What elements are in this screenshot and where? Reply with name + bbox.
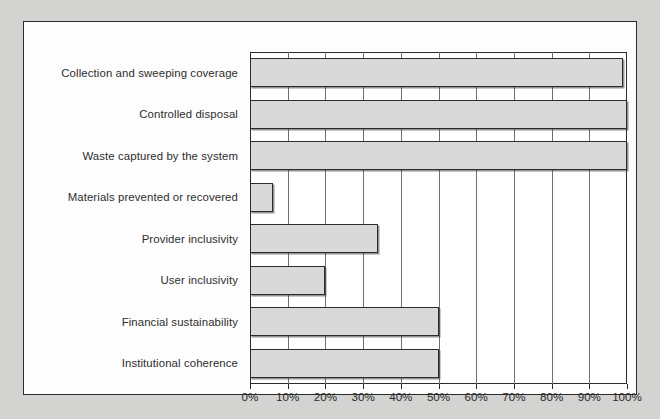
y-axis-label: User inclusivity bbox=[47, 260, 245, 302]
plot-area bbox=[250, 52, 627, 384]
x-axis-tick bbox=[627, 384, 628, 389]
x-axis-tick bbox=[288, 384, 289, 389]
y-axis-label: Collection and sweeping coverage bbox=[47, 52, 245, 94]
x-axis-tick-label: 50% bbox=[427, 390, 450, 403]
bar-row bbox=[250, 177, 627, 219]
x-axis-tick-label: 10% bbox=[276, 390, 299, 403]
y-axis-label: Provider inclusivity bbox=[47, 218, 245, 260]
x-axis-tick-label: 40% bbox=[389, 390, 412, 403]
bar[interactable] bbox=[250, 183, 273, 212]
x-axis: 0%10%20%30%40%50%60%70%80%90%100% bbox=[250, 384, 627, 414]
y-axis-labels: Collection and sweeping coverage Control… bbox=[47, 52, 245, 384]
bar[interactable] bbox=[250, 307, 439, 336]
x-axis-tick bbox=[325, 384, 326, 389]
bar[interactable] bbox=[250, 141, 627, 170]
x-axis-tick bbox=[514, 384, 515, 389]
x-axis-tick bbox=[401, 384, 402, 389]
bar-row bbox=[250, 218, 627, 260]
x-axis-tick-label: 80% bbox=[540, 390, 563, 403]
x-axis-tick-label: 90% bbox=[578, 390, 601, 403]
x-axis-tick bbox=[552, 384, 553, 389]
x-axis-tick-label: 0% bbox=[242, 390, 259, 403]
bar[interactable] bbox=[250, 349, 439, 378]
y-axis-label: Financial sustainability bbox=[47, 301, 245, 343]
x-axis-tick-label: 20% bbox=[314, 390, 337, 403]
bar-row bbox=[250, 52, 627, 94]
y-axis-label: Materials prevented or recovered bbox=[47, 177, 245, 219]
bar-row bbox=[250, 94, 627, 136]
x-axis-tick-label: 30% bbox=[351, 390, 374, 403]
x-axis-tick bbox=[250, 384, 251, 389]
chart-panel: Collection and sweeping coverage Control… bbox=[23, 21, 637, 395]
x-axis-tick bbox=[439, 384, 440, 389]
bar-row bbox=[250, 343, 627, 385]
y-axis-label: Waste captured by the system bbox=[47, 135, 245, 177]
x-axis-tick bbox=[589, 384, 590, 389]
x-axis-tick-label: 100% bbox=[612, 390, 642, 403]
y-axis-label: Controlled disposal bbox=[47, 94, 245, 136]
bar[interactable] bbox=[250, 224, 378, 253]
x-axis-tick-label: 70% bbox=[502, 390, 525, 403]
bar[interactable] bbox=[250, 58, 623, 87]
bar[interactable] bbox=[250, 100, 627, 129]
bar-row bbox=[250, 260, 627, 302]
x-axis-tick bbox=[363, 384, 364, 389]
bar-series bbox=[250, 52, 627, 384]
x-axis-tick-label: 60% bbox=[465, 390, 488, 403]
y-axis-label: Institutional coherence bbox=[47, 343, 245, 385]
x-axis-tick bbox=[476, 384, 477, 389]
bar-row bbox=[250, 135, 627, 177]
bar-row bbox=[250, 301, 627, 343]
bar[interactable] bbox=[250, 266, 325, 295]
chart-screenshot: Collection and sweeping coverage Control… bbox=[0, 0, 660, 419]
